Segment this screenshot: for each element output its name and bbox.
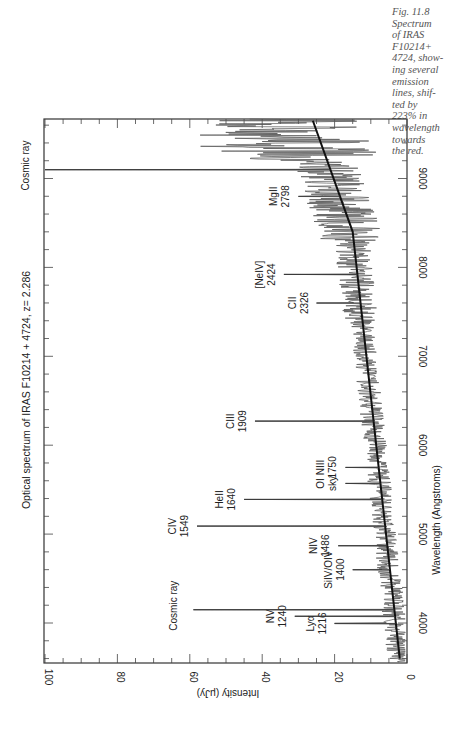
x-tick-label: 9000 (417, 167, 428, 190)
emission-rest-wavelength: 1750 (327, 456, 338, 479)
emission-label: NIII (315, 460, 326, 476)
emission-rest-wavelength: 1216 (317, 612, 328, 635)
emission-rest-wavelength: 1400 (335, 558, 346, 581)
emission-rest-wavelength: 1549 (179, 515, 190, 538)
x-tick-label: 6000 (417, 434, 428, 457)
spectrum-line (45, 119, 405, 662)
y-tick-label: 60 (188, 671, 199, 683)
emission-label: NIV (308, 537, 319, 554)
emission-label: Cosmic ray (168, 581, 179, 631)
emission-label: MgII (268, 187, 279, 206)
y-tick-label: 20 (333, 671, 344, 683)
emission-label: OI (315, 478, 326, 489)
emission-label: HeII (214, 490, 225, 508)
emission-label: NV (265, 609, 276, 623)
x-tick-label: 7000 (417, 345, 428, 368)
y-tick-label: 100 (43, 669, 54, 686)
emission-label: CIII (225, 413, 236, 429)
chart-title: Optical spectrum of IRAS F10214 + 4724, … (20, 271, 32, 509)
emission-label: CII (287, 297, 298, 310)
emission-rest-wavelength: 2798 (280, 185, 291, 208)
y-tick-label: 0 (405, 674, 416, 680)
y-axis-title: Intensity (μJy) (197, 688, 259, 699)
x-tick-label: 5000 (417, 523, 428, 546)
emission-rest-wavelength: 2424 (266, 263, 277, 286)
emission-rest-wavelength: 2326 (299, 291, 310, 314)
y-tick-label: 40 (260, 671, 271, 683)
emission-rest-wavelength: 1909 (237, 410, 248, 433)
x-tick-label: 8000 (417, 256, 428, 279)
emission-label: CIV (167, 517, 178, 534)
emission-label: Lyα (305, 615, 316, 631)
x-axis-title: Wavelength (Angstroms) (431, 465, 442, 575)
emission-rest-wavelength: 1486 (320, 534, 331, 557)
emission-label: [NeIV] (254, 260, 265, 288)
spectrum-chart: 400050006000700080009000020406080100Wave… (0, 0, 469, 729)
emission-rest-wavelength: 1640 (226, 488, 237, 511)
emission-label: Cosmic ray (20, 141, 31, 191)
emission-rest-wavelength: 1240 (277, 605, 288, 628)
figure: Fig. 11.8Spectrumof IRASF10214+4724, sho… (0, 0, 469, 729)
x-tick-label: 4000 (417, 612, 428, 635)
y-tick-label: 80 (115, 671, 126, 683)
